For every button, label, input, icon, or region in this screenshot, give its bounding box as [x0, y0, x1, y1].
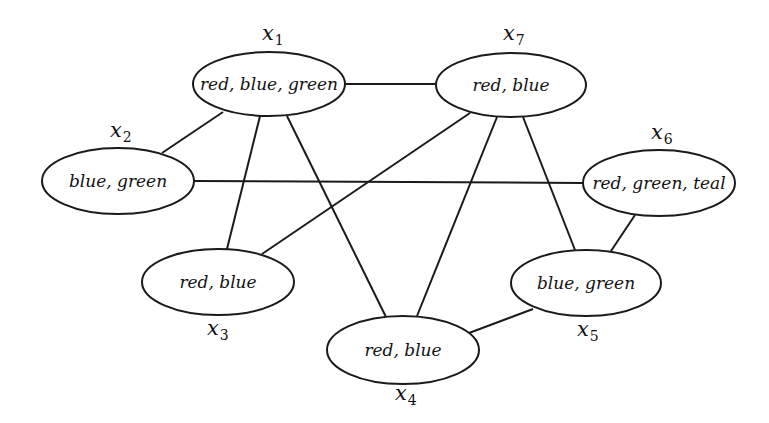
edge-x7-x4	[417, 117, 497, 316]
variable-label: x6	[651, 120, 673, 147]
node-x1: red, blue, greenx1	[193, 21, 345, 116]
nodes-layer: red, blue, greenx1blue, greenx2red, blue…	[42, 21, 735, 408]
node-domain-text: red, green, teal	[592, 173, 725, 193]
node-domain-text: red, blue	[179, 272, 256, 292]
node-x3: red, bluex3	[142, 249, 294, 343]
variable-label: x3	[207, 316, 229, 343]
edge-x2-x6	[194, 181, 583, 183]
node-domain-text: blue, green	[537, 273, 635, 293]
node-x4: red, bluex4	[327, 316, 479, 408]
edge-x7-x3	[262, 113, 470, 254]
variable-label: x2	[110, 118, 132, 145]
node-domain-text: red, blue, green	[200, 74, 338, 94]
variable-label: x7	[503, 21, 525, 48]
graph-svg: red, blue, greenx1blue, greenx2red, blue…	[0, 0, 769, 423]
variable-label: x1	[262, 21, 284, 48]
node-x7: red, bluex7	[436, 21, 586, 117]
constraint-graph-diagram: red, blue, greenx1blue, greenx2red, blue…	[0, 0, 769, 423]
edge-x1-x4	[287, 116, 386, 317]
node-x6: red, green, tealx6	[583, 120, 735, 216]
node-domain-text: red, blue	[472, 75, 549, 95]
edge-x4-x5	[469, 309, 533, 333]
node-domain-text: blue, green	[69, 171, 167, 191]
node-domain-text: red, blue	[364, 340, 441, 360]
node-x5: blue, greenx5	[511, 250, 661, 344]
edge-x6-x5	[611, 215, 635, 251]
variable-label: x5	[577, 317, 599, 344]
edge-x1-x2	[162, 112, 223, 153]
variable-label: x4	[395, 381, 417, 408]
node-x2: blue, greenx2	[42, 118, 194, 214]
edge-x1-x3	[227, 116, 260, 249]
